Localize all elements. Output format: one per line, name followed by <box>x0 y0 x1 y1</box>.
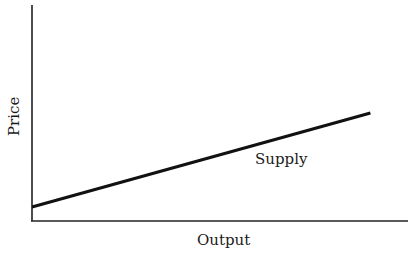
supply-curve <box>32 113 370 207</box>
supply-chart: Supply Output Price <box>0 0 418 259</box>
supply-curve-label: Supply <box>255 150 308 168</box>
y-axis-label: Price <box>5 97 23 136</box>
x-axis-label: Output <box>197 231 250 249</box>
